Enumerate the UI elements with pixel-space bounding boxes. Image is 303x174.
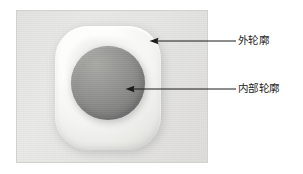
outer-contour-arrow — [150, 38, 237, 44]
inner-contour-label: 内部轮廓 — [238, 83, 279, 94]
annotated-figure: 外轮廓 内部轮廓 — [0, 0, 303, 174]
inner-contour-arrow — [126, 86, 237, 92]
outer-contour-label: 外轮廓 — [238, 35, 269, 46]
